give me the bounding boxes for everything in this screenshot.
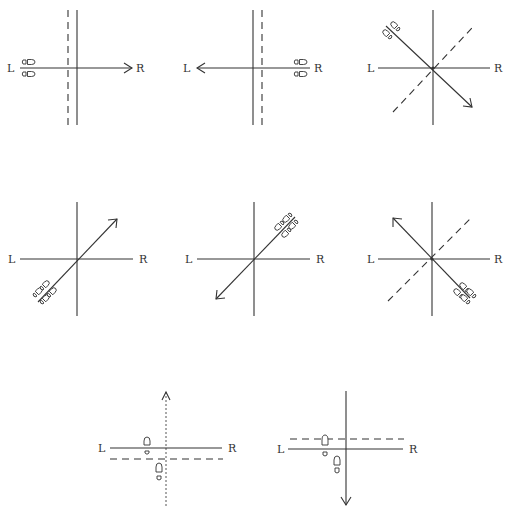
left-label: L: [367, 62, 375, 75]
right-label: R: [494, 253, 503, 266]
right-label: R: [228, 442, 237, 455]
left-label: L: [277, 443, 285, 456]
right-label: R: [494, 62, 503, 75]
footprints-icon: [274, 212, 299, 238]
diagram-5-move-diagonal-down-left: L R: [185, 202, 325, 316]
footprints-icon: [322, 435, 340, 473]
right-label: R: [316, 253, 325, 266]
diagram-6-move-diagonal-up-left: L R: [367, 202, 503, 316]
left-label: L: [183, 62, 191, 75]
diagram-7-move-forward: L R: [98, 392, 237, 507]
right-label: R: [139, 253, 148, 266]
diagram-4-move-diagonal-up-right: L R: [8, 202, 148, 316]
diagram-1-move-right: L R: [7, 10, 145, 125]
right-label: R: [136, 62, 145, 75]
footprints-icon: [382, 21, 403, 40]
diagram-8-move-backward: L R: [277, 391, 418, 505]
center-point: [431, 66, 434, 69]
movement-line: [216, 217, 295, 299]
right-label: R: [314, 62, 323, 75]
footprints-icon: [32, 280, 57, 305]
left-label: L: [98, 442, 106, 455]
right-label: R: [409, 443, 418, 456]
left-label: L: [185, 253, 193, 266]
left-label: L: [367, 253, 375, 266]
diagram-2-move-left: L R: [183, 10, 323, 125]
dance-step-diagrams: L R L R L R: [0, 0, 510, 518]
left-label: L: [8, 253, 16, 266]
center-point: [430, 257, 433, 260]
diagram-3-move-diagonal-down-right: L R: [367, 10, 503, 125]
left-label: L: [7, 62, 15, 75]
